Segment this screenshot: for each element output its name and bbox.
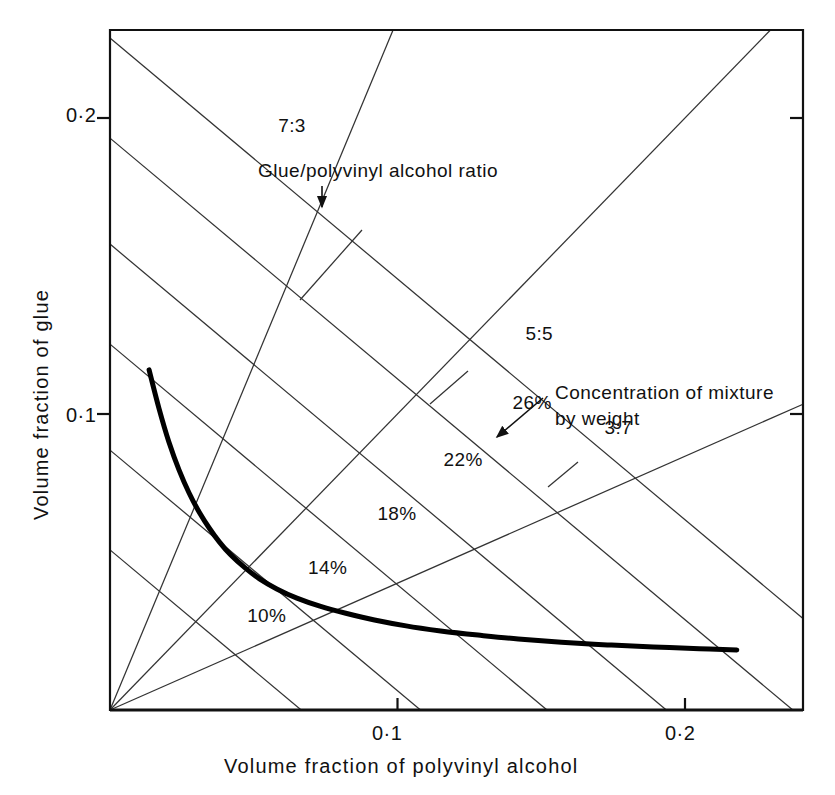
concentration-label-22: 22% [444, 449, 483, 471]
concentration-caption-line-1: Concentration of mixture [555, 382, 774, 403]
concentration-lines-group [110, 38, 803, 710]
y-axis-title: Volume fraction of glue [30, 289, 53, 520]
plot-frame-group [110, 30, 803, 710]
concentration-label-14: 14% [308, 557, 347, 579]
x-tick-label-0-2: 0·2 [665, 722, 695, 745]
figure-container: 0·2 0·1 0·1 0·2 Volume fraction of polyv… [0, 0, 835, 795]
ratio-label-5-5: 5:5 [525, 323, 553, 345]
x-axis-title: Volume fraction of polyvinyl alcohol [224, 755, 578, 778]
ratio-label-3-7: 3:7 [605, 417, 633, 439]
x-tick-label-0-1: 0·1 [372, 722, 402, 745]
concentration-label-10: 10% [247, 605, 286, 627]
ratio-label-7-3: 7:3 [278, 115, 306, 137]
concentration-caption-label: Concentration of mixture by weight [555, 380, 774, 432]
ratio-caption-label: Glue/polyvinyl alcohol ratio [258, 160, 498, 182]
y-tick-label-0-1: 0·1 [66, 404, 96, 427]
y-tick-label-0-2: 0·2 [66, 104, 96, 127]
concentration-label-18: 18% [377, 503, 416, 525]
ratio-lines-group [110, 30, 803, 710]
concentration-label-26: 26% [513, 392, 552, 414]
